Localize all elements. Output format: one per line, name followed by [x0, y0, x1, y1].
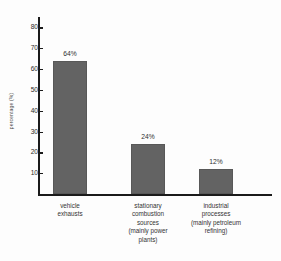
x-axis-category-label-line: (mainly power: [114, 227, 182, 235]
bar: [131, 144, 165, 194]
y-axis-tick-label: 30: [16, 128, 38, 135]
y-axis-tick: [38, 27, 43, 28]
bar-chart: percentage (%) 1020304050607080 64%vehic…: [0, 0, 281, 261]
x-axis-category-label: industrialprocesses(mainly petroleumrefi…: [178, 202, 254, 236]
y-axis-tick-label: 60: [16, 65, 38, 72]
y-axis-tick: [38, 173, 43, 174]
y-axis-tick: [38, 90, 43, 91]
x-axis-category-label-line: combustion: [114, 210, 182, 218]
y-axis-tick-label: 40: [16, 107, 38, 114]
y-axis-tick: [38, 152, 43, 153]
y-axis-line: [38, 17, 40, 196]
x-axis-line: [38, 194, 272, 196]
bar-value-label: 64%: [45, 50, 95, 57]
y-axis-tick-label: 70: [16, 44, 38, 51]
y-axis-tick: [38, 69, 43, 70]
y-axis-tick-label: 80: [16, 23, 38, 30]
bar-value-label: 24%: [123, 133, 173, 140]
y-axis-tick-label: 20: [16, 148, 38, 155]
x-axis-category-label-line: stationary: [114, 202, 182, 210]
x-axis-category-label-line: refining): [178, 227, 254, 235]
x-axis-category-label-line: plants): [114, 236, 182, 244]
x-axis-category-label-line: industrial: [178, 202, 254, 210]
y-axis-tick: [38, 48, 43, 49]
x-axis-category-label-line: exhausts: [40, 210, 100, 218]
bar-value-label: 12%: [191, 158, 241, 165]
bar: [53, 61, 87, 194]
x-axis-category-label: stationarycombustionsources(mainly power…: [114, 202, 182, 244]
x-axis-category-label-line: processes: [178, 210, 254, 218]
y-axis-tick: [38, 111, 43, 112]
x-axis-category-label-line: (mainly petroleum: [178, 219, 254, 227]
x-axis-category-label-line: vehicle: [40, 202, 100, 210]
x-axis-category-label: vehicleexhausts: [40, 202, 100, 219]
x-axis-category-label-line: sources: [114, 219, 182, 227]
y-axis-label: percentage (%): [8, 71, 14, 151]
bar: [199, 169, 233, 194]
y-axis-tick-label: 50: [16, 86, 38, 93]
y-axis-tick: [38, 132, 43, 133]
y-axis-tick-label: 10: [16, 169, 38, 176]
